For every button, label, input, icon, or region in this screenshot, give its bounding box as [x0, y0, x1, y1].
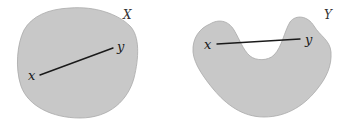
nonconvex-point-x-label: x: [204, 37, 212, 52]
convex-point-x-label: x: [28, 68, 36, 83]
convex-set-panel: x y X: [17, 8, 137, 118]
nonconvex-set-label: Y: [324, 8, 333, 22]
convex-point-y-label: y: [116, 39, 125, 54]
convexity-diagram: x y X x y Y: [0, 0, 348, 131]
nonconvex-set-panel: x y Y: [193, 8, 333, 117]
convex-set-region: [17, 8, 137, 118]
convex-set-label: X: [122, 8, 132, 22]
nonconvex-point-y-label: y: [304, 32, 313, 47]
